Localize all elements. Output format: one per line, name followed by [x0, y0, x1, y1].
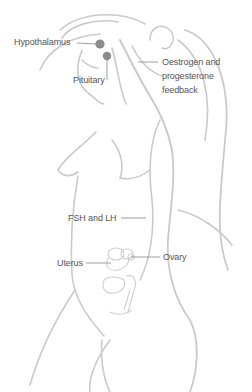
hypothalamus-dot [95, 39, 104, 48]
feedback-label-line2: progesterone [162, 70, 214, 82]
uterus-label: Uterus [57, 257, 83, 269]
pituitary-dot [103, 52, 111, 60]
feedback-label-line1: Oestrogen and [162, 56, 220, 68]
hypothalamus-label: Hypothalamus [14, 36, 70, 48]
pituitary-label: Pituitary [73, 74, 105, 86]
feedback-label-line3: feedback [162, 84, 198, 96]
fsh-lh-label: FSH and LH [68, 212, 117, 224]
ovary-label: Ovary [163, 251, 187, 263]
